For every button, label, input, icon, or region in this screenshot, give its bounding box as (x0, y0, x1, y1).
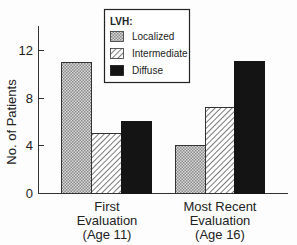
y-axis-title: No. of Patients (4, 79, 19, 165)
legend-label-localized: Localized (132, 31, 174, 42)
legend-title: LVH: (110, 16, 133, 27)
legend-swatch-intermediate (111, 49, 124, 59)
bar-localized-recent (176, 146, 206, 194)
category-first-line1: First (94, 199, 120, 214)
legend-swatch-diffuse (111, 66, 124, 76)
bar-diffuse-recent (235, 62, 265, 194)
category-label-second: Most Recent Evaluation (Age 16) (184, 199, 257, 242)
bar-diffuse-first (122, 122, 152, 194)
bar-localized-first (62, 63, 92, 194)
tick-label-4: 4 (26, 138, 33, 153)
category-first-line2: Evaluation (77, 213, 138, 228)
legend-swatch-localized (111, 32, 124, 42)
bar-chart: 0 4 8 12 No. of Patients First Evaluatio… (0, 0, 297, 245)
category-second-line2: Evaluation (190, 213, 251, 228)
category-first-line3: (Age 11) (83, 227, 132, 242)
tick-label-12: 12 (19, 43, 33, 58)
bar-intermediate-recent (206, 108, 235, 194)
tick-label-0: 0 (26, 186, 33, 201)
tick-label-8: 8 (26, 91, 33, 106)
legend-label-intermediate: Intermediate (132, 48, 188, 59)
bar-intermediate-first (92, 134, 122, 194)
legend: LVH: Localized Intermediate Diffuse (105, 10, 190, 83)
category-second-line3: (Age 16) (195, 227, 245, 242)
y-tick-labels: 0 4 8 12 (19, 43, 33, 201)
legend-label-diffuse: Diffuse (132, 65, 163, 76)
category-second-line1: Most Recent (184, 199, 257, 214)
category-label-first: First Evaluation (Age 11) (77, 199, 138, 242)
